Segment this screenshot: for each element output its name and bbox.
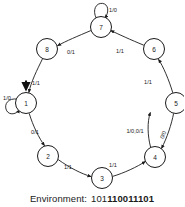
caption-sequence-prefix: 101	[91, 193, 107, 204]
state-machine-diagram: 1 2 3 4 5 6 7 8 1/1	[0, 0, 184, 190]
edge-8-to-1	[29, 59, 43, 93]
edge-3-to-4	[113, 161, 146, 176]
node-5[interactable]: 5	[166, 93, 185, 114]
edge-label-1-to-2: 0/1	[31, 129, 39, 135]
edge-6-to-7	[111, 30, 144, 45]
node-8[interactable]: 8	[37, 39, 58, 60]
edge-label-6-to-7: 1/1	[116, 48, 124, 54]
node-8-label: 8	[45, 46, 49, 53]
edge-label-3-to-4: 1/1	[109, 162, 117, 168]
node-3-label: 3	[100, 175, 104, 182]
node-1[interactable]: 1	[16, 93, 37, 114]
node-3[interactable]: 3	[92, 168, 113, 189]
edge-5-to-6	[158, 59, 172, 93]
node-7[interactable]: 7	[91, 17, 112, 38]
edge-label-2-to-3: 1/1	[64, 164, 72, 170]
node-1-label: 1	[24, 100, 28, 107]
edge-label-8-to-1: 1/1	[32, 80, 40, 86]
fsm-figure: 1 2 3 4 5 6 7 8 1/1	[0, 0, 184, 207]
edge-label-5-to-6: 1/1	[144, 79, 152, 85]
node-5-label: 5	[174, 100, 178, 107]
self-loop-label-node-7: 1/0	[109, 7, 117, 13]
node-4[interactable]: 4	[145, 147, 166, 168]
caption-sequence-bold: 110011101	[107, 193, 154, 204]
node-2-label: 2	[46, 153, 50, 160]
caption-label: Environment:	[30, 193, 87, 204]
node-2[interactable]: 2	[38, 146, 59, 167]
edge-4-to-5	[148, 112, 151, 147]
figure-caption: Environment: 101110011101	[0, 190, 184, 207]
self-loop-label-node-1: 1/0	[3, 95, 11, 101]
edge-label-4-to-5: 1/0,0/1	[126, 128, 143, 134]
edge-7-to-8	[57, 31, 90, 46]
edge-label-7-to-8: 0/1	[67, 49, 75, 55]
node-6-label: 6	[152, 46, 156, 53]
node-7-label: 7	[99, 24, 103, 31]
node-6[interactable]: 6	[144, 39, 165, 60]
node-4-label: 4	[153, 154, 157, 161]
